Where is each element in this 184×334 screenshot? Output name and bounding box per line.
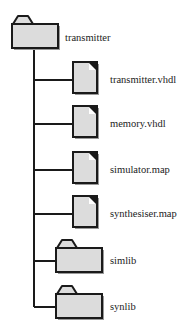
file-icon[interactable] bbox=[73, 62, 99, 95]
folder-icon[interactable] bbox=[56, 240, 104, 274]
root-folder-label[interactable]: transmitter bbox=[65, 32, 111, 44]
folder-icon[interactable] bbox=[56, 286, 104, 320]
file-icon[interactable] bbox=[73, 152, 99, 185]
file-label[interactable]: transmitter.vhdl bbox=[110, 74, 176, 86]
file-label[interactable]: simulator.map bbox=[110, 164, 170, 176]
file-label[interactable]: synthesiser.map bbox=[110, 208, 177, 220]
file-label[interactable]: memory.vhdl bbox=[110, 118, 166, 130]
file-icon[interactable] bbox=[73, 196, 99, 229]
folder-icon[interactable] bbox=[12, 16, 60, 50]
folder-label[interactable]: simlib bbox=[110, 255, 136, 267]
file-icon[interactable] bbox=[73, 106, 99, 139]
folder-label[interactable]: synlib bbox=[110, 301, 136, 313]
